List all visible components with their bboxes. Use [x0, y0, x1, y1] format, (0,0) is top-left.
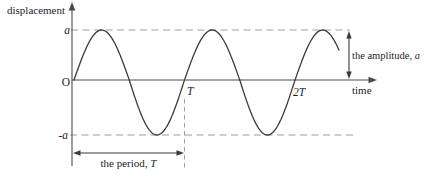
y-tick-label-a: a	[46, 24, 70, 37]
amplitude-arrow	[346, 31, 351, 79]
x-axis-arrowhead-icon	[369, 77, 378, 84]
amplitude-arrow-bottom-arrowhead-icon	[346, 72, 351, 80]
x-tick-label-2T: 2T	[293, 86, 305, 99]
amplitude-annotation: the amplitude, a	[352, 50, 420, 62]
origin-label: O	[46, 76, 70, 89]
period-annotation-text: the period,	[101, 157, 148, 169]
period-arrow-right-arrowhead-icon	[177, 150, 185, 156]
y-axis-arrowhead-icon	[69, 2, 76, 11]
x-tick-label-T: T	[187, 85, 193, 98]
amplitude-arrow-top-arrowhead-icon	[346, 31, 351, 39]
y-axis-title: displacement	[7, 4, 65, 16]
period-annotation-symbol: T	[150, 157, 156, 169]
amplitude-annotation-symbol: a	[415, 50, 420, 61]
period-arrow-left-arrowhead-icon	[73, 150, 81, 156]
period-arrow	[73, 150, 184, 156]
y-tick-label-negative-a: -a	[40, 129, 68, 142]
x-axis-title: time	[352, 84, 372, 96]
amplitude-annotation-text: the amplitude,	[352, 50, 412, 61]
period-annotation: the period, T	[72, 157, 185, 169]
wave-displacement-time-figure: displacement a O -a T 2T time the amplit…	[0, 0, 427, 176]
sine-wave-curve	[74, 30, 339, 135]
